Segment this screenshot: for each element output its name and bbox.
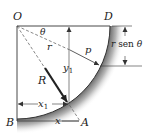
label-O: O — [13, 10, 22, 23]
label-x1: x1 — [38, 98, 48, 111]
label-x: x — [55, 115, 61, 126]
label-y1: y1 — [62, 62, 73, 75]
label-r: r — [47, 41, 53, 52]
label-p: p — [85, 44, 92, 55]
label-theta: θ — [40, 27, 46, 37]
label-B: B — [5, 116, 14, 129]
quarter-circle-force-diagram: O D B A θ r p R y1 x1 x r sen θ — [0, 0, 150, 133]
label-R: R — [37, 74, 46, 87]
label-A: A — [80, 116, 89, 129]
resultant-arrow-R — [45, 68, 67, 102]
label-r-sen-theta: r sen θ — [111, 39, 143, 49]
label-D: D — [103, 10, 113, 23]
